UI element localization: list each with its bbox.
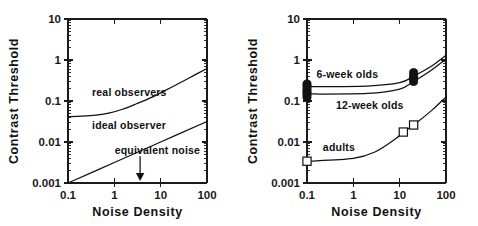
marker-adults [399, 128, 407, 136]
y-tick-label: 1 [55, 54, 62, 66]
marker-adults [410, 121, 418, 129]
series-label-ideal-observer: ideal observer [92, 119, 166, 131]
panel-left: 0.0010.010.11100.1110100real observersid… [7, 13, 217, 219]
series-label-adults: adults [323, 141, 355, 153]
series-label-6-week-olds: 6-week olds [316, 68, 378, 80]
figure-container: 0.0010.010.11100.1110100real observersid… [0, 0, 478, 226]
y-axis-title: Contrast Threshold [246, 38, 260, 164]
marker-12-week-olds [410, 77, 418, 85]
y-ticks-right [202, 19, 207, 183]
y-tick-label: 0.1 [45, 95, 62, 107]
y-axis-title: Contrast Threshold [7, 38, 21, 164]
x-tick-label: 10 [154, 189, 167, 201]
series-labels: real observersideal observer [92, 86, 167, 131]
x-tick-label: 0.1 [299, 189, 316, 201]
x-tick-label: 1 [350, 189, 357, 201]
y-tick-label: 10 [287, 13, 300, 25]
x-tick-label: 100 [436, 189, 455, 201]
x-tick-label: 0.1 [60, 189, 77, 201]
two-panel-figure: 0.0010.010.11100.1110100real observersid… [0, 0, 478, 226]
y-tick-label: 10 [48, 13, 61, 25]
y-tick-label: 0.001 [271, 177, 300, 189]
x-axis-title: Noise Density [92, 205, 182, 219]
x-tick-label: 10 [393, 189, 406, 201]
annotations: equivalent noise [115, 144, 200, 181]
marker-12-week-olds [303, 93, 311, 101]
series-labels: 6-week olds12-week oldsadults [316, 68, 403, 153]
x-tick-label: 1 [111, 189, 118, 201]
y-tick-label: 0.1 [284, 95, 301, 107]
panel-right: 0.0010.010.11100.11101006-week olds12-we… [246, 13, 456, 219]
annotation-arrow-head-equivalent-noise [136, 173, 144, 181]
x-axis-title: Noise Density [331, 205, 421, 219]
y-tick-label: 1 [294, 54, 301, 66]
x-tick-label: 100 [197, 189, 216, 201]
marker-adults [303, 157, 311, 165]
axes-frame [68, 19, 207, 183]
y-tick-label: 0.001 [32, 177, 61, 189]
y-tick-label: 0.01 [278, 136, 301, 148]
annotation-label-equivalent-noise: equivalent noise [115, 144, 200, 156]
series-label-12-week-olds: 12-week olds [336, 99, 404, 111]
y-ticks: 0.0010.010.1110 [32, 13, 73, 189]
y-tick-label: 0.01 [39, 136, 62, 148]
series-label-real-observers: real observers [92, 86, 167, 98]
